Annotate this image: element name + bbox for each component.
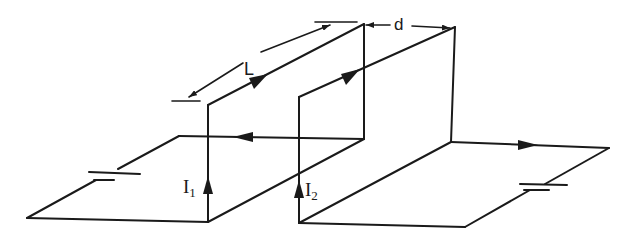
loop1-left-wire-upper: [118, 136, 179, 169]
label-current-2: I2: [305, 180, 318, 202]
loop2-inner-diagonal: [299, 142, 451, 223]
arrow-up-icon-i1: [203, 176, 213, 194]
loop2-vertical-right: [451, 27, 455, 142]
arrow-left-icon-return: [233, 132, 253, 142]
current-arrows: [203, 69, 538, 198]
loop2-right-wire-upper: [545, 148, 609, 184]
label-current-2-subscript: 2: [311, 188, 318, 203]
circuit-drawing: [0, 0, 635, 247]
battery-1-icon: [89, 172, 140, 180]
battery-2-icon: [520, 184, 567, 190]
label-current-1: I1: [183, 177, 196, 199]
label-current-1-subscript: 1: [189, 185, 196, 200]
loop2-right-wire-lower: [465, 190, 530, 227]
dimension-L: [172, 22, 357, 101]
label-length: L: [244, 60, 254, 78]
loop1-return-wire: [179, 136, 364, 139]
loop2-top-wire: [299, 27, 455, 97]
loop2-bottom-wire: [299, 223, 465, 227]
label-separation: d: [394, 16, 403, 33]
dim-d-arrow-right: [412, 26, 450, 28]
arrow-up-icon-i2: [294, 180, 304, 198]
loop-2: [299, 27, 609, 227]
arrow-topright-icon-loop2: [341, 69, 360, 85]
loop1-top-wire: [208, 24, 364, 105]
loop1-left-wire-lower: [27, 180, 96, 218]
diagram-canvas: L d I1 I2: [0, 0, 635, 247]
arrow-right-icon-forward: [518, 140, 538, 150]
dimension-d: [366, 25, 450, 28]
